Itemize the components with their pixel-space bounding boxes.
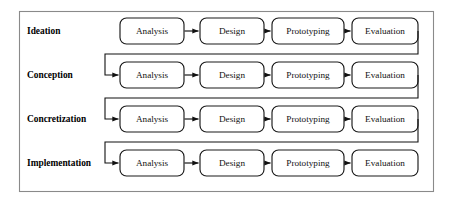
node-label-analysis: Analysis: [136, 114, 169, 124]
node-concretization-evaluation[interactable]: Evaluation: [352, 106, 418, 132]
row-label-concretization: Concretization: [27, 114, 87, 124]
node-label-analysis: Analysis: [136, 70, 169, 80]
node-concretization-design[interactable]: Design: [200, 106, 264, 132]
process-row-conception: ConceptionAnalysisDesignPrototypingEvalu…: [27, 62, 418, 88]
process-row-concretization: ConcretizationAnalysisDesignPrototypingE…: [27, 106, 418, 132]
node-label-prototyping: Prototyping: [286, 114, 330, 124]
node-ideation-analysis[interactable]: Analysis: [120, 18, 184, 44]
node-label-design: Design: [219, 158, 245, 168]
node-label-design: Design: [219, 26, 245, 36]
node-implementation-evaluation[interactable]: Evaluation: [352, 150, 418, 176]
node-implementation-design[interactable]: Design: [200, 150, 264, 176]
connectors: [105, 31, 418, 163]
node-label-evaluation: Evaluation: [365, 158, 405, 168]
node-conception-design[interactable]: Design: [200, 62, 264, 88]
node-label-design: Design: [219, 70, 245, 80]
node-label-prototyping: Prototyping: [286, 26, 330, 36]
node-label-evaluation: Evaluation: [365, 26, 405, 36]
diagram-canvas: IdeationAnalysisDesignPrototypingEvaluat…: [0, 0, 452, 205]
node-label-prototyping: Prototyping: [286, 158, 330, 168]
node-concretization-prototyping[interactable]: Prototyping: [272, 106, 344, 132]
node-ideation-prototyping[interactable]: Prototyping: [272, 18, 344, 44]
row-label-ideation: Ideation: [27, 26, 61, 36]
node-label-evaluation: Evaluation: [365, 70, 405, 80]
node-conception-evaluation[interactable]: Evaluation: [352, 62, 418, 88]
node-conception-prototyping[interactable]: Prototyping: [272, 62, 344, 88]
node-ideation-design[interactable]: Design: [200, 18, 264, 44]
row-label-conception: Conception: [27, 70, 74, 80]
process-rows: IdeationAnalysisDesignPrototypingEvaluat…: [27, 18, 418, 176]
row-label-implementation: Implementation: [27, 158, 92, 168]
node-conception-analysis[interactable]: Analysis: [120, 62, 184, 88]
node-label-prototyping: Prototyping: [286, 70, 330, 80]
node-label-evaluation: Evaluation: [365, 114, 405, 124]
process-diagram: IdeationAnalysisDesignPrototypingEvaluat…: [0, 0, 452, 205]
node-label-design: Design: [219, 114, 245, 124]
node-label-analysis: Analysis: [136, 26, 169, 36]
process-row-implementation: ImplementationAnalysisDesignPrototypingE…: [27, 150, 418, 176]
process-row-ideation: IdeationAnalysisDesignPrototypingEvaluat…: [27, 18, 418, 44]
node-implementation-analysis[interactable]: Analysis: [120, 150, 184, 176]
node-implementation-prototyping[interactable]: Prototyping: [272, 150, 344, 176]
node-label-analysis: Analysis: [136, 158, 169, 168]
node-ideation-evaluation[interactable]: Evaluation: [352, 18, 418, 44]
node-concretization-analysis[interactable]: Analysis: [120, 106, 184, 132]
